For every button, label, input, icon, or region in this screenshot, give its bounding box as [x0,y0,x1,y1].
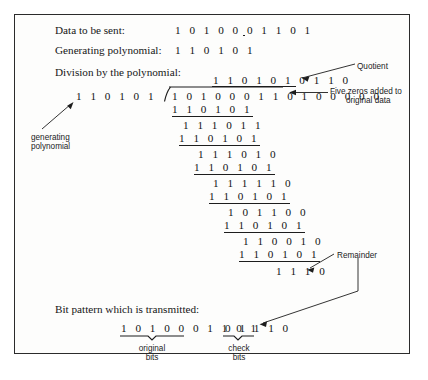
generating-polynomial-annotation-line2: polynomial [31,142,70,152]
division-step-1-difference: 1 1 1 0 1 1 [183,119,264,131]
division-step-5-difference: 1 1 0 0 1 0 [243,235,324,247]
divisor-value: 1 1 0 1 0 1 [76,90,157,102]
original-bits-annotation-line2: bits [128,353,176,363]
quotient-annotation: Quotient [357,62,388,72]
division-step-2-difference: 1 1 1 0 1 0 [198,148,279,160]
quotient-value: 1 1 0 1 0 1 0 1 1 0 [213,74,351,86]
transmitted-check-bits: 0 1 1 1 0 [225,322,291,334]
check-bits-annotation-line2: bits [218,353,260,363]
generating-polynomial-label: Generating polynomial: [55,44,162,57]
division-step-5-subtrahend: 1 1 0 1 0 1 [224,219,305,233]
data-to-be-sent-label: Data to be sent: [55,24,125,37]
data-to-be-sent-value: 1 0 1 0 0 0 1 1 0 1 [175,24,313,36]
remainder-value: 1 1 1 0 [276,265,328,277]
division-by-polynomial-label: Division by the polynomial: [55,66,181,79]
division-step-1-subtrahend: 1 1 0 1 0 1 [172,103,253,117]
division-step-3-difference: 1 1 1 1 1 0 [213,177,294,189]
bit-pattern-transmitted-label: Bit pattern which is transmitted: [55,303,199,316]
division-step-4-subtrahend: 1 1 0 1 0 1 [209,190,290,204]
division-step-6-subtrahend: 1 1 0 1 0 1 [239,248,320,262]
generating-polynomial-value: 1 1 0 1 0 1 [175,44,256,56]
division-step-3-subtrahend: 1 1 0 1 0 1 [194,161,275,175]
five-zeros-annotation-line2: original data [346,96,391,106]
remainder-annotation: Remainder [337,251,377,261]
division-step-4-difference: 1 0 1 1 0 0 [228,206,309,218]
division-step-2-subtrahend: 1 1 0 1 0 1 [179,132,260,146]
